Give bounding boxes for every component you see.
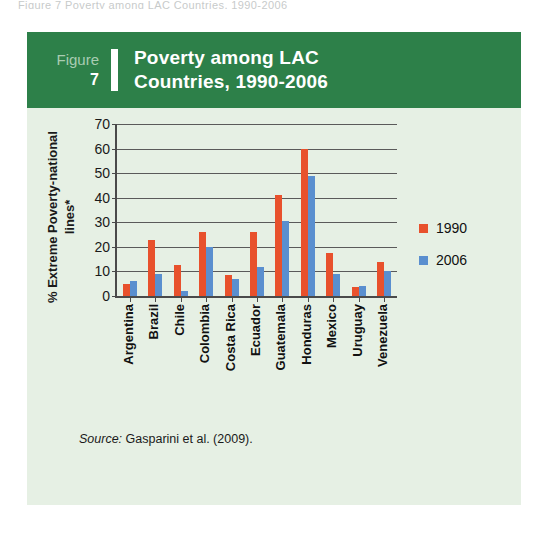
figure-number: 7 (90, 70, 99, 89)
figure-number-block: Figure 7 (27, 51, 107, 89)
bar-2006 (257, 267, 264, 296)
bar-group (117, 124, 142, 296)
x-axis-label: Argentina (120, 304, 135, 365)
legend-swatch-1990 (419, 224, 428, 233)
x-tick-mark (232, 296, 233, 302)
bar-group (168, 124, 193, 296)
x-label-cell: Mexico (319, 304, 344, 399)
figure-title: Poverty among LAC Countries, 1990-2006 (134, 46, 328, 94)
bar-1990 (275, 195, 282, 296)
bar-1990 (123, 284, 130, 296)
legend-item-1990: 1990 (419, 220, 467, 236)
x-label-cell: Honduras (293, 304, 318, 399)
bar-2006 (359, 286, 366, 296)
x-tick-mark (384, 296, 385, 302)
x-label-cell: Costa Rica (217, 304, 242, 399)
header-divider-rule (111, 49, 118, 91)
bar-2006 (282, 221, 289, 296)
x-axis-label: Chile (171, 304, 186, 336)
x-tick-mark (282, 296, 283, 302)
y-tick-mark-0 (112, 296, 117, 297)
x-tick-mark (181, 296, 182, 302)
x-tick-mark (308, 296, 309, 302)
bar-group (372, 124, 397, 296)
bar-1990 (301, 149, 308, 296)
bar-1990 (377, 262, 384, 296)
x-tick-mark (359, 296, 360, 302)
x-label-cell: Ecuador (242, 304, 267, 399)
legend-item-2006: 2006 (419, 252, 467, 268)
bar-2006 (206, 247, 213, 296)
bar-groups (117, 124, 397, 296)
bar-2006 (130, 281, 137, 296)
source-text: Gasparini et al. (2009). (122, 432, 253, 446)
y-tick-label-40: 40 (94, 190, 110, 206)
figure-label-word: Figure (56, 51, 99, 68)
bar-group (142, 124, 167, 296)
x-label-cell: Argentina (115, 304, 140, 399)
y-tick-label-50: 50 (94, 165, 110, 181)
bar-1990 (225, 275, 232, 296)
x-axis-label: Venezuela (375, 304, 390, 367)
bar-group (244, 124, 269, 296)
x-axis-label: Costa Rica (222, 304, 237, 371)
figure-title-line-1: Poverty among LAC (134, 46, 328, 70)
x-axis-label: Brazil (146, 304, 161, 339)
y-tick-label-70: 70 (94, 116, 110, 132)
bar-1990 (326, 253, 333, 296)
x-axis-label: Honduras (298, 304, 313, 365)
legend-label-1990: 1990 (436, 220, 467, 236)
plot-area: 010203040506070 (115, 124, 397, 298)
bar-group (321, 124, 346, 296)
x-tick-mark (257, 296, 258, 302)
legend-label-2006: 2006 (436, 252, 467, 268)
source-prefix: Source: (79, 432, 122, 446)
chart-legend: 1990 2006 (419, 220, 467, 284)
bar-2006 (333, 274, 340, 296)
x-label-cell: Brazil (140, 304, 165, 399)
x-tick-mark (130, 296, 131, 302)
x-tick-mark (155, 296, 156, 302)
x-axis-label: Colombia (197, 304, 212, 363)
figure-header: Figure 7 Poverty among LAC Countries, 19… (27, 32, 521, 108)
bar-1990 (352, 287, 359, 296)
y-tick-label-60: 60 (94, 141, 110, 157)
x-label-cell: Guatemala (268, 304, 293, 399)
bar-2006 (308, 176, 315, 296)
x-axis-label: Mexico (324, 304, 339, 348)
figure-card: Figure 7 Poverty among LAC Countries, 19… (27, 32, 521, 505)
x-tick-mark (206, 296, 207, 302)
bar-1990 (174, 265, 181, 296)
y-tick-label-30: 30 (94, 214, 110, 230)
bar-group (346, 124, 371, 296)
figure-title-line-2: Countries, 1990-2006 (134, 70, 328, 94)
x-axis-label: Guatemala (273, 304, 288, 370)
x-axis-label: Ecuador (247, 304, 262, 356)
bar-group (270, 124, 295, 296)
y-tick-label-0: 0 (102, 288, 110, 304)
x-axis-label: Uruguay (349, 304, 364, 357)
bar-1990 (199, 232, 206, 296)
scan-clipped-text: Figure 7 Poverty among LAC Countries, 19… (18, 0, 438, 9)
bar-2006 (181, 291, 188, 296)
bar-group (193, 124, 218, 296)
y-tick-label-10: 10 (94, 263, 110, 279)
chart-area: % Extreme Poverty-national lines* 010203… (27, 108, 521, 505)
source-note: Source: Gasparini et al. (2009). (79, 432, 253, 446)
bar-2006 (384, 271, 391, 296)
y-tick-label-20: 20 (94, 239, 110, 255)
bar-2006 (155, 274, 162, 296)
y-axis-title: % Extreme Poverty-national lines* (44, 122, 78, 312)
legend-swatch-2006 (419, 256, 428, 265)
x-label-cell: Chile (166, 304, 191, 399)
x-label-cell: Venezuela (370, 304, 395, 399)
bar-2006 (232, 279, 239, 296)
bar-1990 (148, 240, 155, 297)
bar-group (295, 124, 320, 296)
x-label-cell: Colombia (191, 304, 216, 399)
x-axis-labels: ArgentinaBrazilChileColombiaCosta RicaEc… (115, 304, 395, 399)
bar-1990 (250, 232, 257, 296)
x-label-cell: Uruguay (344, 304, 369, 399)
x-tick-mark (333, 296, 334, 302)
bar-group (219, 124, 244, 296)
